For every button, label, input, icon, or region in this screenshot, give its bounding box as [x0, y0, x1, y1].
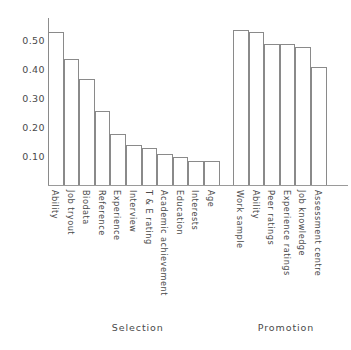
bar [311, 67, 327, 186]
bar [233, 30, 249, 186]
bar [48, 32, 64, 186]
y-tick-label: 0.40 [22, 65, 45, 75]
group-caption: Selection [112, 322, 164, 333]
bar [126, 145, 142, 186]
bar [142, 148, 158, 186]
bar [264, 44, 280, 186]
bar [280, 44, 296, 186]
bar [64, 59, 80, 186]
category-label: Ability [51, 190, 59, 219]
bar [110, 134, 126, 186]
category-label: Peer ratings [267, 190, 275, 245]
category-label: Work sample [236, 190, 244, 249]
bar [157, 154, 173, 186]
y-tick-label: 0.30 [22, 94, 45, 104]
y-tick-label: 0.20 [22, 123, 45, 133]
category-label: Interests [191, 190, 199, 230]
category-label: Experience [113, 190, 121, 241]
x-axis-baseline [48, 185, 348, 186]
y-axis-tick-labels: 0.500.400.300.200.10 [0, 0, 45, 350]
category-label: Experience ratings [283, 190, 291, 276]
category-label: Interview [129, 190, 137, 233]
bar [79, 79, 95, 186]
bar [173, 157, 189, 186]
group-caption: Promotion [258, 322, 314, 333]
bar [188, 161, 204, 186]
bar-chart: 0.500.400.300.200.10 AbilityJob tryoutBi… [0, 0, 351, 350]
plot-area [48, 18, 348, 186]
bar [204, 161, 220, 186]
category-label: Job tryout [67, 190, 75, 235]
category-label: Education [176, 190, 184, 235]
y-tick-label: 0.10 [22, 152, 45, 162]
category-label: Ability [252, 190, 260, 219]
category-label: Reference [98, 190, 106, 236]
category-label: T & E rating [145, 190, 153, 245]
category-label: Academic achievement [160, 190, 168, 296]
bar [95, 111, 111, 186]
bar [295, 47, 311, 186]
category-label: Assessment centre [314, 190, 322, 276]
category-label: Age [207, 190, 215, 207]
category-label: Biodata [82, 190, 90, 225]
bar [249, 32, 265, 186]
y-tick-label: 0.50 [22, 36, 45, 46]
category-label: Job knowledge [298, 190, 306, 256]
